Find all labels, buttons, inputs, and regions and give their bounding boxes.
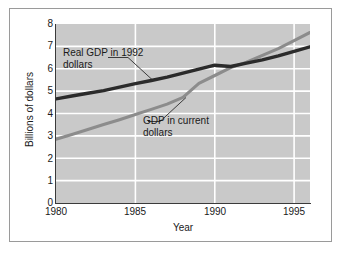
x-tick-label-1990: 1990 [192,207,238,217]
x-tick-label-1995: 1995 [271,207,317,217]
x-axis-title: Year [56,222,310,233]
annotation-current-gdp: GDP in current dollars [143,115,209,139]
y-tick-label-1: 1 [33,176,53,186]
chart-figure: Billions of dollars 8 7 6 5 4 3 2 1 0 [0,0,342,259]
annotation-real-gdp-line2: dollars [63,59,143,71]
annotation-real-gdp: Real GDP in 1992 dollars [63,47,143,71]
annotation-current-gdp-line2: dollars [143,127,209,139]
y-axis-line [55,24,56,204]
y-tick-label-3: 3 [33,131,53,141]
annotation-current-gdp-line1: GDP in current [143,115,209,127]
y-tick-label-6: 6 [33,64,53,74]
x-tick-label-1980: 1980 [33,207,79,217]
x-axis-line [55,203,311,204]
y-tick-label-2: 2 [33,154,53,164]
y-tick-label-5: 5 [33,86,53,96]
y-tick-label-7: 7 [33,41,53,51]
x-tick-label-1985: 1985 [112,207,158,217]
y-tick-label-4: 4 [33,109,53,119]
annotation-real-gdp-line1: Real GDP in 1992 [63,47,143,59]
y-tick-label-8: 8 [33,19,53,29]
